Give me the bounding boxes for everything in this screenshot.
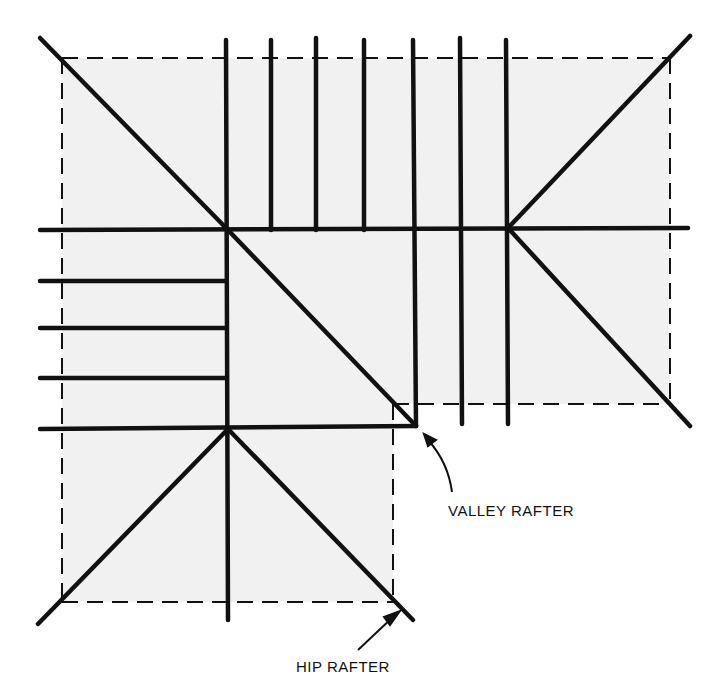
hip-rafter-leader [358, 611, 400, 650]
figure-caption [26, 693, 706, 700]
valley-rafter-leader [424, 434, 452, 492]
hip-rafter-label: HIP RAFTER [296, 658, 390, 675]
valley-rafter-label: VALLEY RAFTER [448, 502, 574, 519]
roof-framing-diagram [0, 0, 719, 700]
